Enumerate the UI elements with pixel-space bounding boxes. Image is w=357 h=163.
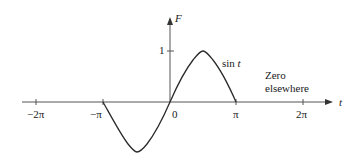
y-axis-label: F [174, 12, 182, 24]
x-tick-label-negpi: −π [90, 108, 102, 120]
curve-label-func: sin [222, 57, 238, 69]
curve-label-var: t [238, 57, 242, 69]
chart-canvas: F t 1 −2π −π 0 π 2π sin t Zero elsewhere [0, 0, 357, 163]
x-axis-label: t [339, 96, 343, 108]
note-line-2: elsewhere [265, 82, 309, 94]
curve-label: sin t [222, 57, 242, 69]
note-line-1: Zero [265, 69, 286, 81]
x-tick-label-zero: 0 [172, 108, 178, 120]
y-tick-label-1: 1 [159, 44, 165, 56]
x-tick-label-neg2pi: −2π [27, 108, 45, 120]
x-axis-arrow-icon [325, 99, 333, 105]
x-tick-label-pi: π [233, 108, 239, 120]
y-axis-arrow-icon [167, 17, 173, 25]
x-tick-label-2pi: 2π [296, 108, 308, 120]
